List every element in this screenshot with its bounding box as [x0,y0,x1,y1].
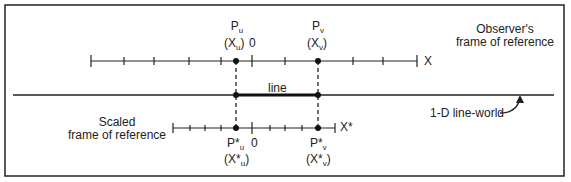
scaled-frame-label: Scaledframe of reference [62,116,172,142]
point-pu [233,58,239,64]
observer-frame-label: Observer'sframe of reference [450,23,560,49]
label-xsv: (X*v) [306,153,331,170]
label-pu: Pu [223,20,251,37]
observer-axis [91,55,417,67]
point-pv [315,58,321,64]
segment-start [233,92,239,98]
label-xv: (Xv) [307,37,327,54]
axis-xstar-label: X* [340,121,353,134]
axis-x-label: X [424,55,432,68]
label-xsu: (X*u) [224,153,249,170]
arrowhead-icon [516,95,524,103]
zero-bottom: 0 [251,137,258,150]
zero-top: 0 [249,37,256,50]
label-pv: Pv [304,20,332,37]
segment-end [315,92,321,98]
label-xu: (Xu) [224,37,244,54]
point-psv [315,125,321,131]
scaled-axis [173,122,335,134]
segment-label: line [268,82,287,95]
point-psu [233,125,239,131]
world-label: 1-D line-world [430,107,504,120]
